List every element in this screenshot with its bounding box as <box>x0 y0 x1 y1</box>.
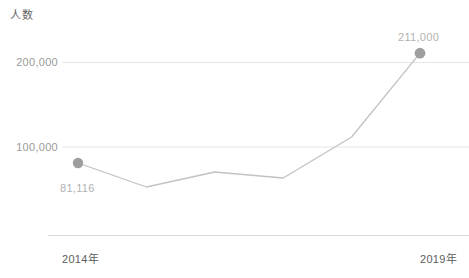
line-chart: 人数 200,000 100,000 81,116 211,000 2014年 … <box>0 0 469 278</box>
data-point-label-2014: 81,116 <box>60 182 95 194</box>
data-point-marker-2019[interactable] <box>415 48 426 59</box>
data-series-line <box>78 53 420 187</box>
data-point-markers <box>73 48 426 168</box>
series-polyline <box>78 53 420 187</box>
x-axis-tick-label-end: 2019年 <box>420 250 457 266</box>
data-point-marker-2014[interactable] <box>73 158 83 168</box>
gridlines <box>62 63 469 148</box>
data-point-label-2019: 211,000 <box>398 31 439 43</box>
x-axis-tick-label-start: 2014年 <box>62 250 99 266</box>
